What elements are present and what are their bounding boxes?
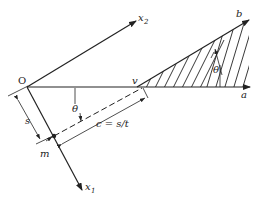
label-theta-right: θ bbox=[213, 64, 219, 75]
label-m: m bbox=[40, 148, 49, 159]
label-b: b bbox=[236, 8, 242, 19]
label-vertex: v bbox=[132, 75, 138, 86]
label-x1-sub: 1 bbox=[91, 187, 95, 195]
label-theta-left: θ bbox=[72, 103, 78, 114]
label-x2-sub: 2 bbox=[143, 18, 149, 26]
label-c: c = s/t bbox=[96, 118, 130, 129]
label-a: a bbox=[241, 89, 247, 100]
wedge-diagram: O x 2 x 1 v b a θ θ s m c = s/t bbox=[0, 0, 259, 200]
label-s: s bbox=[25, 115, 30, 126]
label-origin: O bbox=[18, 75, 26, 86]
ray-b bbox=[137, 20, 249, 87]
axis-x2 bbox=[27, 21, 136, 87]
